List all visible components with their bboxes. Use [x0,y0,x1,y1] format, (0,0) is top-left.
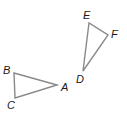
vertex-label-e: E [83,9,91,21]
vertex-label-a: A [60,81,68,93]
vertex-label-c: C [7,99,15,111]
triangle-diagram: A B C D E F [0,0,127,115]
vertex-label-d: D [76,73,84,85]
vertex-label-f: F [111,28,119,40]
vertex-label-b: B [3,64,10,76]
triangle-abc [14,73,57,98]
triangle-def [83,23,108,71]
